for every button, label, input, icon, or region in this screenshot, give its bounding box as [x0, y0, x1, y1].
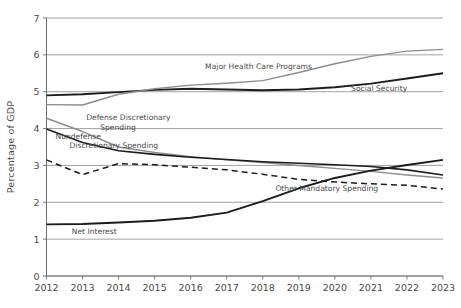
x-axis-tick-labels: 2012201320142015201620172018201920202021… [34, 282, 455, 293]
chart-container: 01234567 2012201320142015201620172018201… [0, 0, 461, 308]
x-tick-label-2023: 2023 [431, 282, 455, 293]
y-tick-label-4: 4 [33, 123, 39, 134]
x-tick-label-2012: 2012 [34, 282, 58, 293]
series-line-major-health-care-programs [47, 49, 444, 105]
series-label-nondefense-discretionary-spending: NondefenseDiscretionary Spending [56, 132, 159, 151]
y-axis-tick-labels: 01234567 [33, 13, 46, 282]
x-tick-label-2013: 2013 [70, 282, 94, 293]
x-tick-label-2014: 2014 [106, 282, 130, 293]
y-axis-title-text: Percentage of GDP [5, 101, 16, 194]
series-line-net-interest [47, 160, 444, 225]
y-tick-label-3: 3 [33, 160, 39, 171]
y-tick-label-5: 5 [33, 86, 39, 97]
series-annotations: Social SecurityMajor Health Care Program… [56, 62, 408, 236]
y-tick-label-0: 0 [33, 271, 39, 282]
x-tick-label-2020: 2020 [323, 282, 347, 293]
series-label-major-health-care-programs: Major Health Care Programs [205, 62, 312, 71]
y-tick-label-6: 6 [33, 49, 39, 60]
series-line-other-mandatory-spending [47, 160, 444, 189]
x-tick-label-2021: 2021 [359, 282, 383, 293]
x-tick-label-2018: 2018 [251, 282, 275, 293]
x-tick-label-2016: 2016 [179, 282, 203, 293]
y-tick-label-7: 7 [33, 13, 39, 24]
series-label-other-mandatory-spending: Other Mandatory Spending [275, 184, 378, 193]
x-tick-label-2022: 2022 [395, 282, 419, 293]
x-axis-ticks [47, 276, 444, 280]
y-tick-label-1: 1 [33, 234, 39, 245]
series-label-net-interest: Net Interest [72, 227, 117, 236]
y-axis-title: Percentage of GDP [5, 101, 16, 194]
series-label-social-security: Social Security [351, 84, 408, 93]
line-chart: 01234567 2012201320142015201620172018201… [0, 0, 461, 308]
y-tick-label-2: 2 [33, 197, 39, 208]
x-tick-label-2019: 2019 [287, 282, 311, 293]
data-series-lines [47, 49, 444, 224]
series-label-defense-discretionary-spending: Defense DiscretionarySpending [86, 113, 171, 132]
x-tick-label-2015: 2015 [143, 282, 167, 293]
x-tick-label-2017: 2017 [215, 282, 239, 293]
